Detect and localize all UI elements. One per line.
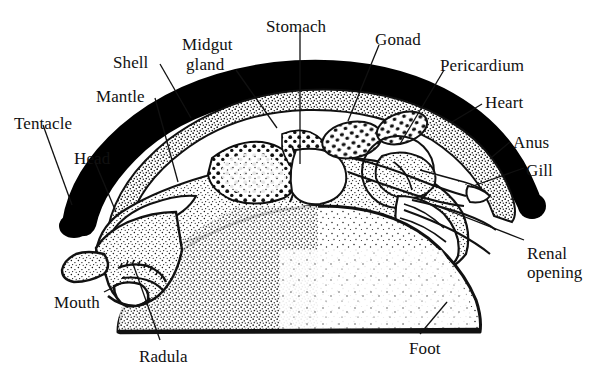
label-tentacle: Tentacle [14,115,72,133]
label-pericardium: Pericardium [440,57,524,75]
label-shell: Shell [113,54,148,72]
label-radula: Radula [139,348,188,366]
shell-right-tip [518,193,546,219]
foot-sole-line [120,330,478,332]
label-renal-opening2: opening [527,264,582,282]
label-midgut-gland2: gland [186,56,224,74]
label-mantle: Mantle [96,88,145,106]
label-renal-opening: Renal [527,245,567,263]
shell-left-tip [59,214,89,238]
label-head: Head [74,150,110,168]
mollusc-anatomy-figure: TentacleHeadMantleShellMidgutglandStomac… [0,0,603,376]
label-stomach: Stomach [266,18,326,36]
label-anus: Anus [513,134,549,152]
label-gonad: Gonad [375,31,421,49]
label-midgut-gland: Midgut [182,36,233,54]
label-gill: Gill [526,162,553,180]
label-foot: Foot [409,340,441,358]
label-heart: Heart [485,94,523,112]
label-mouth: Mouth [54,294,100,312]
